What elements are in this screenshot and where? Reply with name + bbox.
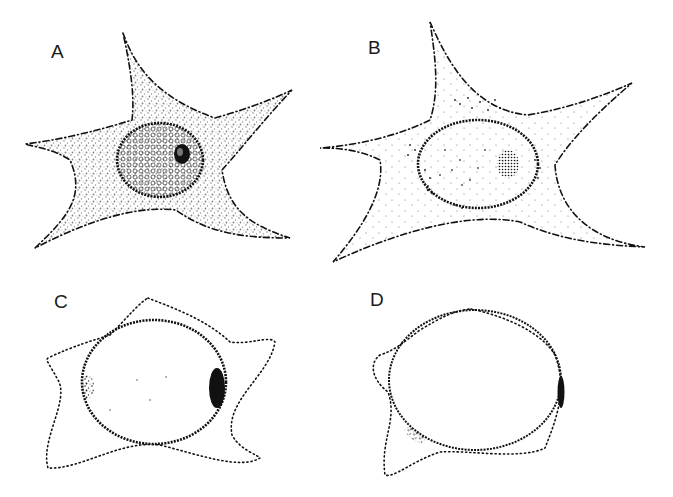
cell-morphology-figure: A B C D [0, 0, 673, 497]
panel-label-d: D [370, 289, 384, 311]
panel-label-b: B [368, 37, 381, 59]
panel-d-rim-shading-right [558, 376, 565, 408]
panel-b-nucleolus [497, 150, 519, 178]
panel-c-dark-crescent [209, 368, 225, 408]
panel-a-cell [25, 33, 292, 248]
panel-d-outer-membrane [373, 309, 560, 475]
panel-c-nuclear-envelope [82, 320, 226, 444]
panel-label-c: C [54, 291, 68, 313]
panel-c-rim-shading-left [82, 375, 94, 399]
panel-a-nucleolus-highlight [177, 148, 183, 156]
cell-drawings [0, 0, 673, 497]
panel-d-nuclear-envelope [389, 310, 561, 450]
panel-d-rim-shading-left [402, 424, 427, 446]
panel-label-a: A [51, 41, 64, 63]
panel-d-cell [373, 309, 564, 475]
panel-c-nuclear-flecks [109, 376, 167, 411]
panel-c-cell [47, 298, 275, 468]
